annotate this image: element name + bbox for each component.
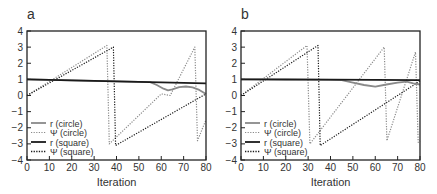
y-axis: −4−3−2−101234: [12, 26, 31, 166]
y-tick-label: 3: [17, 42, 23, 53]
x-tick-label: 10: [44, 162, 56, 173]
legend-label: r (square): [50, 138, 89, 148]
y-tick-label: 0: [17, 90, 23, 101]
y-tick-label: −3: [12, 138, 24, 149]
x-tick-label: 80: [200, 162, 212, 173]
x-tick-label: 10: [258, 162, 270, 173]
x-tick-label: 30: [89, 162, 101, 173]
x-tick-label: 0: [24, 162, 30, 173]
y-tick-label: 2: [17, 58, 23, 69]
legend: r (circle) Ψ (circle) r (square) Ψ (squa…: [31, 119, 94, 158]
y-tick-label: −2: [226, 122, 238, 133]
x-tick-label: 70: [178, 162, 190, 173]
series-line: [241, 79, 420, 80]
panel-label: b: [241, 6, 249, 22]
legend-label: r (circle): [50, 119, 83, 129]
y-tick-label: 2: [231, 58, 237, 69]
x-tick-label: 60: [156, 162, 168, 173]
x-tick-label: 40: [111, 162, 123, 173]
y-axis: −4−3−2−101234: [226, 26, 245, 166]
y-tick-label: 0: [231, 90, 237, 101]
x-tick-label: 80: [414, 162, 426, 173]
panel-a: a −4−3−2−101234 01020304050607080 r (cir…: [12, 6, 212, 188]
x-tick-label: 40: [325, 162, 337, 173]
legend-label: Ψ (square): [264, 147, 308, 157]
legend-label: r (square): [264, 138, 303, 148]
x-tick-label: 0: [238, 162, 244, 173]
x-tick-label: 50: [347, 162, 359, 173]
legend-label: Ψ (circle): [50, 128, 87, 138]
y-tick-label: 1: [17, 74, 23, 85]
legend-label: Ψ (circle): [264, 128, 301, 138]
x-tick-label: 50: [133, 162, 145, 173]
x-axis: 01020304050607080: [24, 156, 212, 173]
x-tick-label: 30: [303, 162, 315, 173]
x-axis-label: Iteration: [311, 176, 351, 188]
x-axis: 01020304050607080: [238, 156, 426, 173]
panel-label: a: [27, 6, 35, 22]
x-tick-label: 60: [370, 162, 382, 173]
legend-label: Ψ (square): [50, 147, 94, 157]
y-tick-label: −4: [12, 155, 24, 166]
y-tick-label: 1: [231, 74, 237, 85]
legend-label: r (circle): [264, 119, 297, 129]
x-axis-label: Iteration: [97, 176, 137, 188]
y-tick-label: 3: [231, 42, 237, 53]
y-tick-label: −2: [12, 122, 24, 133]
y-tick-label: −1: [226, 106, 238, 117]
panel-b: b −4−3−2−101234 01020304050607080 r (cir…: [226, 6, 426, 188]
figure: a −4−3−2−101234 01020304050607080 r (cir…: [0, 0, 437, 194]
x-tick-label: 20: [280, 162, 292, 173]
y-tick-label: −1: [12, 106, 24, 117]
series-line: [27, 79, 206, 83]
y-tick-label: 4: [17, 26, 23, 37]
y-tick-label: 4: [231, 26, 237, 37]
legend: r (circle) Ψ (circle) r (square) Ψ (squa…: [245, 119, 308, 158]
x-tick-label: 70: [392, 162, 404, 173]
y-tick-label: −4: [226, 155, 238, 166]
y-tick-label: −3: [226, 138, 238, 149]
x-tick-label: 20: [66, 162, 78, 173]
